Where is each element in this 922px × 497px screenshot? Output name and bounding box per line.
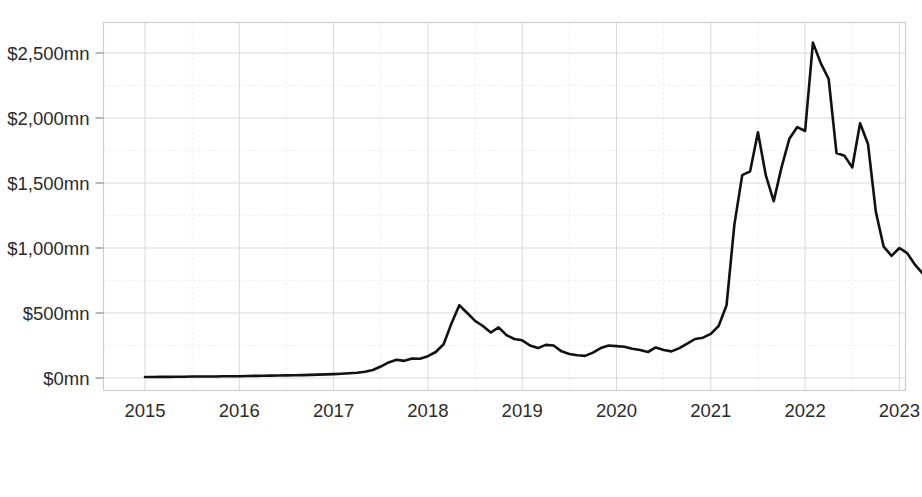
x-axis-tick-label: 2023: [879, 400, 920, 421]
y-axis-tick-label: $1,500mn: [7, 173, 89, 194]
chart-container: $0mn$500mn$1,000mn$1,500mn$2,000mn$2,500…: [0, 0, 922, 497]
y-axis-tick-label: $2,500mn: [7, 43, 89, 64]
y-axis-tick-label: $500mn: [23, 303, 90, 324]
x-axis-tick-label: 2021: [690, 400, 731, 421]
x-axis-labels: 201520162017201820192020202120222023: [124, 400, 920, 421]
x-axis-tick-label: 2018: [407, 400, 448, 421]
y-axis-tick-label: $0mn: [43, 368, 89, 389]
line-chart: $0mn$500mn$1,000mn$1,500mn$2,000mn$2,500…: [0, 0, 922, 497]
y-axis-tick-label: $1,000mn: [7, 238, 89, 259]
x-axis-tick-label: 2019: [502, 400, 543, 421]
x-axis-tick-label: 2017: [313, 400, 354, 421]
x-axis-tick-label: 2020: [596, 400, 637, 421]
x-axis-tick-label: 2016: [219, 400, 260, 421]
x-axis-tick-label: 2022: [785, 400, 826, 421]
y-axis-tick-label: $2,000mn: [7, 108, 89, 129]
x-axis-tick-label: 2015: [124, 400, 165, 421]
